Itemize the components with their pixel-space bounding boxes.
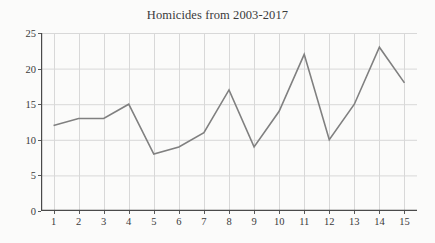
y-axis-tick-label: 25: [26, 28, 37, 39]
x-axis-tick-mark: [229, 211, 230, 214]
x-axis-tick-mark: [379, 211, 380, 214]
x-axis-tick-label: 7: [201, 216, 206, 227]
x-axis-tick-mark: [254, 211, 255, 214]
x-axis-tick-mark: [204, 211, 205, 214]
y-axis-tick-label: 20: [26, 63, 37, 74]
x-axis-tick-label: 6: [176, 216, 181, 227]
x-axis-tick-label: 15: [399, 216, 410, 227]
x-axis-tick-mark: [304, 211, 305, 214]
x-axis-tick-label: 1: [51, 216, 56, 227]
chart-title: Homicides from 2003-2017: [0, 8, 435, 23]
x-axis-tick-label: 12: [324, 216, 335, 227]
x-axis-tick-mark: [404, 211, 405, 214]
x-axis-tick-mark: [354, 211, 355, 214]
y-axis-tick-label: 15: [26, 99, 37, 110]
y-axis-tick-label: 10: [26, 134, 37, 145]
x-axis-tick-label: 3: [101, 216, 106, 227]
x-axis-tick-label: 9: [251, 216, 256, 227]
x-axis-tick-label: 10: [274, 216, 285, 227]
y-axis-tick-mark: [38, 140, 41, 141]
y-axis-tick-mark: [38, 69, 41, 70]
x-axis-tick-mark: [129, 211, 130, 214]
x-axis-tick-mark: [329, 211, 330, 214]
x-axis-tick-mark: [179, 211, 180, 214]
line-chart: Homicides from 2003-2017 0510152025 1234…: [0, 0, 435, 243]
y-axis-tick-mark: [38, 175, 41, 176]
x-axis-tick-mark: [154, 211, 155, 214]
y-axis-tick-label: 5: [31, 170, 36, 181]
x-axis-tick-mark: [104, 211, 105, 214]
x-axis-tick-label: 13: [349, 216, 360, 227]
x-axis-tick-mark: [79, 211, 80, 214]
plot-area: 0510152025 123456789101112131415: [41, 33, 417, 211]
plot-svg: [41, 33, 417, 211]
x-axis-tick-label: 14: [374, 216, 385, 227]
y-axis-tick-mark: [38, 33, 41, 34]
x-axis-tick-mark: [279, 211, 280, 214]
x-axis-tick-label: 2: [76, 216, 81, 227]
x-axis-tick-label: 5: [151, 216, 156, 227]
x-axis-tick-label: 11: [299, 216, 309, 227]
y-axis-tick-mark: [38, 211, 41, 212]
vertical-gridlines: [55, 33, 405, 211]
y-axis-tick-mark: [38, 104, 41, 105]
y-axis-tick-label: 0: [31, 206, 36, 217]
x-axis-tick-label: 4: [126, 216, 131, 227]
x-axis-tick-mark: [54, 211, 55, 214]
x-axis-tick-label: 8: [226, 216, 231, 227]
